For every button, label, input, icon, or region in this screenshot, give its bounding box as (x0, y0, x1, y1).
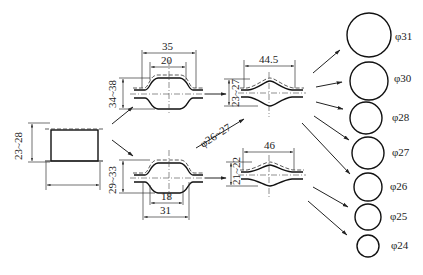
product-phi27: φ27 (352, 137, 410, 169)
stage1-upper-height-label: 34~38 (106, 80, 118, 108)
product-arrows (302, 50, 350, 235)
stage2-upper-preform: 44.5 23~27 (224, 53, 306, 117)
product-label-phi26: φ26 (390, 180, 408, 192)
forging-diagram: 23~28 35 20 34~38 29~33 1 (0, 0, 423, 275)
stage2-upper-height-label: 23~27 (229, 79, 241, 107)
stage1-upper-preform: 35 20 34~38 (106, 40, 207, 115)
stage1-upper-outer-width: 35 (162, 40, 174, 52)
arrow-billet-to-lower (112, 140, 133, 156)
stage1-lower-preform: 29~33 18 31 (106, 150, 207, 220)
product-phi25: φ25 (355, 204, 408, 230)
product-label-phi27: φ27 (392, 146, 410, 158)
stage2-lower-height-label: 21~22 (230, 157, 242, 185)
product-label-phi25: φ25 (390, 210, 408, 222)
product-label-phi31: φ31 (395, 30, 412, 42)
stage2-upper-width: 44.5 (259, 53, 279, 65)
stage1-lower-outer-width: 31 (160, 204, 171, 216)
stage1-lower-height-label: 29~33 (106, 166, 118, 194)
product-phi26: φ26 (354, 173, 408, 201)
product-label-phi28: φ28 (392, 111, 410, 123)
stage1-upper-inner-width: 20 (161, 54, 173, 66)
billet-height-label: 23~28 (12, 132, 24, 160)
product-label-phi24: φ24 (391, 239, 409, 251)
product-phi24: φ24 (357, 235, 409, 257)
product-phi28: φ28 (350, 102, 410, 134)
product-label-phi30: φ30 (394, 72, 412, 84)
stage2-lower-width: 46 (264, 139, 276, 151)
product-phi30: φ30 (350, 62, 412, 100)
stage1-lower-inner-width: 18 (161, 190, 173, 202)
stage2-lower-preform: 46 21~22 (226, 139, 306, 197)
product-phi31: φ31 (347, 13, 412, 57)
transfer-label: φ26~27 (198, 121, 234, 150)
arrow-billet-to-upper (112, 107, 133, 124)
billet: 23~28 (12, 123, 103, 190)
